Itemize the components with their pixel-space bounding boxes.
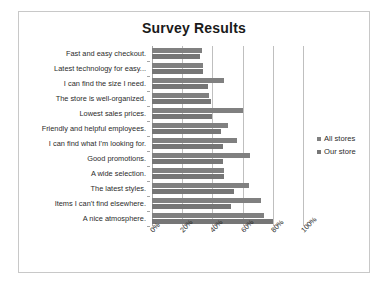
- legend-item[interactable]: All stores: [317, 134, 373, 143]
- category-label: Latest technology for easy...: [54, 65, 146, 72]
- category-label: A wide selection.: [91, 170, 146, 177]
- chart-legend: All storesOur store: [317, 134, 373, 160]
- bar-0-7: [152, 153, 250, 158]
- category-tickmark: [147, 136, 150, 137]
- bar-1-6: [152, 144, 223, 149]
- category-tickmark: [147, 196, 150, 197]
- legend-item[interactable]: Our store: [317, 147, 373, 156]
- category-label: Lowest sales prices.: [79, 110, 146, 117]
- category-label: Friendly and helpful employees.: [42, 125, 146, 132]
- category-tickmark: [147, 121, 150, 122]
- bar-1-1: [152, 69, 203, 74]
- bar-0-0: [152, 48, 202, 53]
- category-tickmark: [147, 166, 150, 167]
- category-label: The store is well-organized.: [56, 95, 146, 102]
- legend-swatch-icon: [317, 137, 321, 141]
- bar-0-6: [152, 138, 237, 143]
- category-label: Good promotions.: [87, 155, 146, 162]
- bar-0-9: [152, 183, 249, 188]
- x-axis-tick-labels: 0%20%40%60%80%100%: [152, 228, 332, 268]
- category-label: The latest styles.: [91, 185, 146, 192]
- category-label: I can find what I'm looking for.: [49, 140, 146, 147]
- bar-0-3: [152, 93, 209, 98]
- category-tickmark: [147, 151, 150, 152]
- category-label: A nice atmosphere.: [83, 215, 146, 222]
- bar-0-10: [152, 198, 261, 203]
- bar-1-7: [152, 159, 223, 164]
- plot-area: [152, 46, 303, 226]
- category-tickmark: [147, 106, 150, 107]
- legend-swatch-icon: [317, 150, 321, 154]
- bar-0-1: [152, 63, 203, 68]
- chart-title: Survey Results: [19, 20, 369, 36]
- chart-container: Survey Results Fast and easy checkout.La…: [18, 11, 370, 273]
- category-tickmark: [147, 91, 150, 92]
- gridline-100: [303, 46, 304, 226]
- bar-0-11: [152, 213, 264, 218]
- category-label: Items I can't find elsewhere.: [55, 200, 146, 207]
- category-tickmark: [147, 181, 150, 182]
- category-tickmark: [147, 76, 150, 77]
- legend-label: Our store: [324, 147, 356, 156]
- bar-1-2: [152, 84, 208, 89]
- category-axis-labels: Fast and easy checkout.Latest technology…: [19, 46, 150, 226]
- bar-1-8: [152, 174, 224, 179]
- category-tickmark: [147, 211, 150, 212]
- bar-1-10: [152, 204, 231, 209]
- gridline-80: [273, 46, 274, 226]
- bar-0-2: [152, 78, 224, 83]
- bar-0-8: [152, 168, 224, 173]
- legend-label: All stores: [324, 134, 355, 143]
- category-label: I can find the size I need.: [64, 80, 146, 87]
- bar-1-4: [152, 114, 212, 119]
- bar-0-5: [152, 123, 228, 128]
- bar-0-4: [152, 108, 243, 113]
- category-tickmark: [147, 61, 150, 62]
- category-label: Fast and easy checkout.: [66, 50, 146, 57]
- bar-1-3: [152, 99, 211, 104]
- bar-1-9: [152, 189, 234, 194]
- bar-1-5: [152, 129, 221, 134]
- bar-1-0: [152, 54, 200, 59]
